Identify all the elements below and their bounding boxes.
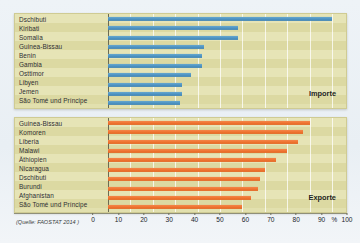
category-label: Jemen xyxy=(19,87,39,94)
tick-mark xyxy=(118,213,119,215)
category-label: São Tomé und Príncipe xyxy=(19,96,87,103)
tick-label: 90 xyxy=(318,216,325,223)
category-label: Guinea-Bissau xyxy=(19,119,62,126)
tick-label: 20 xyxy=(140,216,147,223)
axis-tick-labels: 0102030405060708090100% xyxy=(93,213,347,231)
bar xyxy=(108,101,180,105)
category-label: Libyen xyxy=(19,78,38,85)
category-label: Malawi xyxy=(19,146,40,153)
tick-mark xyxy=(194,213,195,215)
tick-label: 80 xyxy=(293,216,300,223)
tick-mark xyxy=(245,213,246,215)
category-label: Nicaragua xyxy=(19,164,49,171)
tick-mark xyxy=(169,213,170,215)
plot-area-imports xyxy=(108,14,332,108)
category-label: São Tomé und Príncipe xyxy=(19,200,87,207)
bar xyxy=(108,121,310,125)
plot-area-exports xyxy=(108,118,332,212)
axis-tick: 80 xyxy=(293,213,300,223)
axis-tick: 40 xyxy=(191,213,198,223)
bar xyxy=(108,130,303,134)
chart-panel-exports: Guinea-BissauKomorenLiberiaMalawiÄthiopi… xyxy=(14,117,347,213)
axis-tick: 0 xyxy=(91,213,95,223)
bar xyxy=(108,54,202,58)
bar xyxy=(108,73,191,77)
category-label: Dschibuti xyxy=(19,15,46,22)
category-label: Benin xyxy=(19,51,36,58)
bar xyxy=(108,92,182,96)
tick-label: 40 xyxy=(191,216,198,223)
gridline xyxy=(242,14,243,108)
category-label: Liberia xyxy=(19,137,39,144)
tick-mark xyxy=(296,213,297,215)
category-label: Burundi xyxy=(19,182,42,189)
axis-tick: 10 xyxy=(115,213,122,223)
bar xyxy=(108,177,260,181)
axis-tick: 70 xyxy=(267,213,274,223)
tick-mark xyxy=(321,213,322,215)
series-label-imports: Importe xyxy=(309,89,336,98)
category-label: Dschibuti xyxy=(19,173,46,180)
category-label: Gambia xyxy=(19,60,42,67)
tick-label: 30 xyxy=(166,216,173,223)
axis-tick: 60 xyxy=(242,213,249,223)
tick-mark xyxy=(270,213,271,215)
bar xyxy=(108,158,276,162)
bar xyxy=(108,82,182,86)
axis-tick: 100 xyxy=(341,213,352,223)
tick-label: 70 xyxy=(267,216,274,223)
bar xyxy=(108,168,265,172)
tick-label: 100 xyxy=(341,216,352,223)
chart-panel-imports: DschibutiKiribatiSomaliaGuinea-BissauBen… xyxy=(14,13,347,109)
bar xyxy=(108,149,287,153)
category-label: Komoren xyxy=(19,128,46,135)
percent-symbol: % xyxy=(331,216,337,223)
axis-tick: 50 xyxy=(216,213,223,223)
category-label: Äthiopien xyxy=(19,155,47,162)
bar xyxy=(108,17,332,21)
tick-label: 10 xyxy=(115,216,122,223)
tick-mark xyxy=(143,213,144,215)
tick-label: 50 xyxy=(216,216,223,223)
bar xyxy=(108,196,251,200)
bar xyxy=(108,26,238,30)
bar xyxy=(108,35,238,39)
bar xyxy=(108,186,258,190)
axis-tick: 90 xyxy=(318,213,325,223)
tick-mark xyxy=(92,213,93,215)
bar xyxy=(108,139,298,143)
source-note: (Quelle: FAOSTAT 2014 ) xyxy=(16,219,79,225)
category-label: Afghanistan xyxy=(19,191,54,198)
figure-container: DschibutiKiribatiSomaliaGuinea-BissauBen… xyxy=(0,0,360,243)
category-label: Kiribati xyxy=(19,24,39,31)
axis-tick: 30 xyxy=(166,213,173,223)
axis-tick: 20 xyxy=(140,213,147,223)
tick-label: 0 xyxy=(91,216,95,223)
series-label-exports: Exporte xyxy=(308,193,336,202)
bar xyxy=(108,64,202,68)
category-label: Somalia xyxy=(19,33,43,40)
bar xyxy=(108,45,204,49)
tick-mark xyxy=(220,213,221,215)
gridline xyxy=(265,14,266,108)
category-label: Guinea-Bissau xyxy=(19,42,62,49)
category-label: Osttimor xyxy=(19,69,44,76)
tick-label: 60 xyxy=(242,216,249,223)
gridline xyxy=(287,14,288,108)
bar xyxy=(108,205,242,209)
tick-mark xyxy=(346,213,347,215)
